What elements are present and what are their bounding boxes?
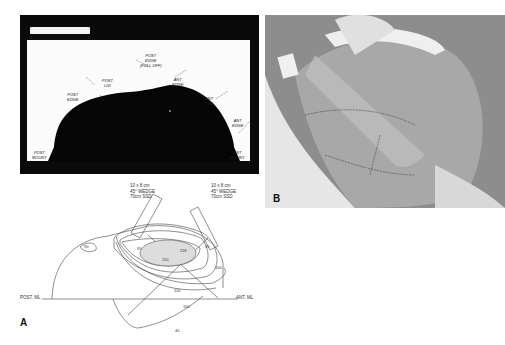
label-ant-edge: ANT EDGE xyxy=(172,77,183,87)
label-post-mount: POST MOUNT xyxy=(32,150,47,160)
isodose-label: 110 xyxy=(162,257,168,262)
label-ant-ssd: ANT SSD xyxy=(205,96,213,106)
isodose-label: 100 xyxy=(183,304,190,309)
isodose-label: 95 xyxy=(205,244,209,249)
isodose-contours xyxy=(18,178,258,333)
post-midline-label: POST. ML xyxy=(20,295,41,301)
label-ant-edge-lower: ANT EDGE xyxy=(232,118,243,128)
panel-letter-b: B xyxy=(273,193,280,204)
beam-left-label: 10 x 8 cm 45° WEDGE 70cm SSD xyxy=(130,183,155,200)
ant-midline-label: ANT. ML xyxy=(236,295,253,301)
isodose-label: 110 xyxy=(174,288,180,293)
isodose-label: 118 xyxy=(180,248,186,253)
isodose-label: 90 xyxy=(84,244,88,249)
label-ant-mount: ANT MOUNT xyxy=(230,150,245,160)
label-post-lid: POST LID xyxy=(102,78,113,88)
panel-b-clinical-photo: B xyxy=(265,15,505,208)
isodose-label: 40 xyxy=(175,328,179,333)
label-post-edge: POST EDGE xyxy=(67,92,78,102)
head-silhouette xyxy=(20,15,259,174)
beam-right-label: 10 x 8 cm 45° WEDGE 70cm SSD xyxy=(211,183,236,200)
panel-a-isodose-diagram: 10 x 8 cm 45° WEDGE 70cm SSD 10 x 8 cm 4… xyxy=(18,178,258,333)
patient-photo xyxy=(265,15,505,208)
label-post-edge-full-off: POST EDGE (FULL OFF) xyxy=(140,53,161,68)
panel-letter-a: A xyxy=(20,317,27,328)
isodose-label: 100 xyxy=(215,265,222,270)
isodose-label: 95 xyxy=(137,246,141,251)
panel-a-contour-photo: POST EDGE (FULL OFF) POST LID POST EDGE … xyxy=(20,15,259,174)
